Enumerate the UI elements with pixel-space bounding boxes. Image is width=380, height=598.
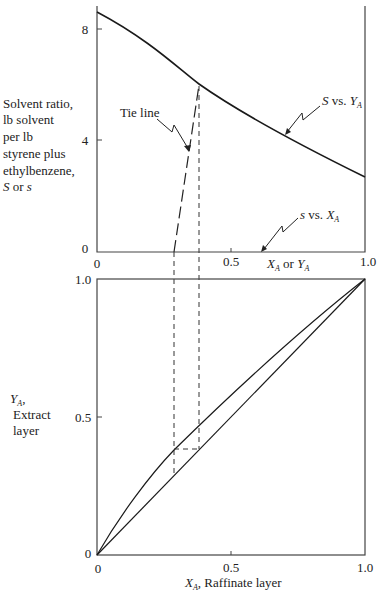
upper-y-tick-label-0: 0 (82, 241, 89, 256)
s-vs-XA-label: s vs. XA (300, 207, 339, 224)
S-vs-YA-arrowhead (285, 128, 291, 135)
lower-x-axis-label: XA, Raffinate layer (184, 575, 282, 592)
lower-x-tick-label-10: 1.0 (357, 560, 373, 575)
lower-y-tick-label-0: 0 (85, 546, 92, 561)
lower-y-axis-label: YA, Extract layer (10, 391, 51, 438)
lower-x-tick-label-05: 0.5 (223, 560, 239, 575)
upper-x-tick-label-05: 0.5 (223, 254, 239, 269)
S-vs-YA-leader (287, 106, 320, 132)
upper-plot: 8 4 0 0 0.5 1.0 XA or YA Solvent ratio, … (3, 6, 376, 273)
svg-text:ethylbenzene,: ethylbenzene, (3, 163, 75, 178)
s-vs-XA-leader (264, 218, 298, 249)
svg-text:Extract: Extract (13, 407, 51, 422)
svg-text:YA,: YA, (10, 391, 25, 408)
upper-x-tick-label-10: 1.0 (360, 254, 376, 269)
lower-plot: 1.0 0.5 0 0 0.5 1.0 XA, Raffinate layer … (10, 272, 373, 592)
diagonal-line (97, 279, 365, 555)
upper-y-axis-label: Solvent ratio, lb solvent per lb styrene… (3, 96, 75, 194)
extraction-diagram: 8 4 0 0 0.5 1.0 XA or YA Solvent ratio, … (0, 0, 380, 598)
svg-text:styrene plus: styrene plus (3, 146, 65, 161)
upper-x-tick-label-0: 0 (94, 256, 101, 271)
tie-line-arrowhead (184, 145, 191, 152)
tie-line-label: Tie line (120, 105, 160, 120)
svg-text:layer: layer (13, 423, 40, 438)
upper-y-tick-label-4: 4 (82, 133, 89, 148)
svg-text:Solvent ratio,: Solvent ratio, (3, 96, 73, 111)
svg-text:per lb: per lb (3, 129, 33, 144)
tie-line (174, 85, 199, 252)
upper-x-axis-label: XA or YA (266, 256, 309, 273)
upper-y-tick-label-8: 8 (82, 22, 89, 37)
S-vs-YA-label: S vs. YA (322, 93, 362, 110)
lower-x-tick-label-0: 0 (95, 561, 102, 576)
svg-text:S or s: S or s (3, 179, 32, 194)
lower-y-tick-label-10: 1.0 (75, 272, 91, 287)
lower-y-tick-label-05: 0.5 (75, 410, 91, 425)
svg-text:lb solvent: lb solvent (3, 112, 54, 127)
tie-line-leader (157, 119, 189, 150)
